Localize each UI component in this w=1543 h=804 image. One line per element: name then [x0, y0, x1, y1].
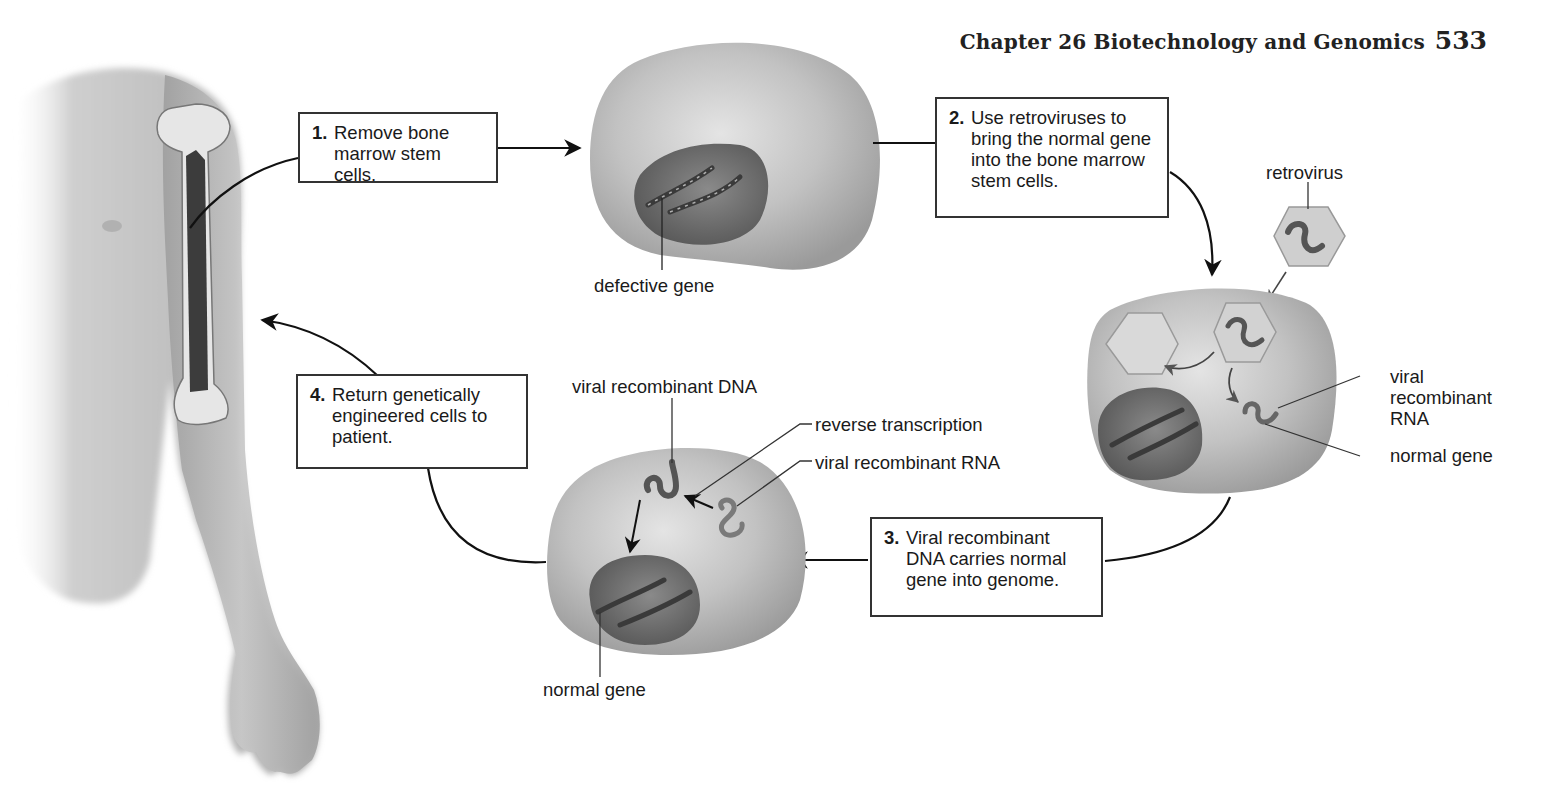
step-4-box: 4. Return genetically engineered cells t… — [296, 374, 528, 469]
gene-therapy-figure: 1. Remove bone marrow stem cells. 2. Use… — [0, 0, 1543, 804]
retrovirus-particle — [1268, 182, 1345, 300]
stem-cell-3 — [547, 398, 812, 677]
stem-cell-2 — [1087, 289, 1360, 494]
label-viral-recombinant-rna-right: viral recombinant RNA — [1390, 366, 1492, 429]
step-4-number: 4. — [310, 384, 325, 405]
step-1-box: 1. Remove bone marrow stem cells. — [298, 112, 498, 183]
step-2-number: 2. — [949, 107, 964, 128]
arrow-step2-to-cell2 — [1170, 172, 1212, 275]
label-viral-recombinant-rna-bottom: viral recombinant RNA — [815, 452, 1000, 473]
arrow-step4-to-patient — [262, 320, 378, 376]
step-1-text: Remove bone marrow stem cells. — [312, 122, 486, 185]
label-normal-gene-right: normal gene — [1390, 445, 1493, 466]
step-2-text: Use retroviruses to bring the normal gen… — [949, 107, 1157, 191]
stem-cell-1 — [590, 43, 880, 270]
label-normal-gene-bottom: normal gene — [543, 679, 646, 700]
step-3-box: 3. Viral recombinant DNA carries normal … — [870, 517, 1103, 617]
label-defective-gene: defective gene — [594, 275, 714, 296]
step-3-number: 3. — [884, 527, 899, 548]
step-2-box: 2. Use retroviruses to bring the normal … — [935, 97, 1169, 218]
step-4-text: Return genetically engineered cells to p… — [310, 384, 516, 447]
label-retrovirus: retrovirus — [1266, 162, 1343, 183]
step-3-text: Viral recombinant DNA carries normal gen… — [884, 527, 1091, 590]
step-1-number: 1. — [312, 122, 327, 143]
patient-arm-illustration — [10, 68, 320, 775]
label-reverse-transcription: reverse transcription — [815, 414, 983, 435]
figure-illustration — [0, 0, 1543, 804]
label-viral-recombinant-dna: viral recombinant DNA — [572, 376, 757, 397]
